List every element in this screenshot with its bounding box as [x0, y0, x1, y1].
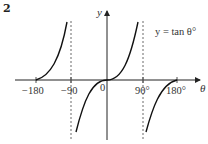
tick-label-180: 180° — [166, 85, 186, 96]
question-number: 2 — [3, 2, 11, 15]
tick-label-90: 90° — [135, 85, 150, 96]
x-axis-label: θ — [200, 82, 206, 94]
tick-label-minus-90: −90 — [61, 85, 77, 96]
y-axis-label: y — [96, 6, 102, 18]
tan-branch-left — [36, 22, 67, 80]
equation-label: y = tan θ° — [155, 26, 196, 37]
tick-label-minus-180: −180 — [22, 85, 44, 96]
tan-graph-figure: 2 y θ y = tan θ° −180 −90 0 — [0, 0, 208, 144]
tan-graph-plot: y θ y = tan θ° −180 −90 0 90° 180° — [0, 0, 208, 144]
tick-label-0: 0 — [100, 82, 105, 93]
